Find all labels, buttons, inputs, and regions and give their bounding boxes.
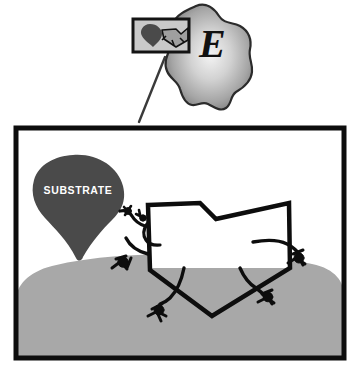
leader-line <box>139 57 165 122</box>
main-panel: SUBSTRATE REVERSIBLE INHIBITOR <box>16 128 344 358</box>
enzyme-letter: E <box>198 21 226 66</box>
active-site-inset-box <box>133 19 189 52</box>
substrate-label: SUBSTRATE <box>44 184 113 196</box>
inhibitor-label-line2: INHIBITOR <box>186 244 244 256</box>
enzyme-inhibition-figure: E SUBSTRATE <box>0 0 360 376</box>
